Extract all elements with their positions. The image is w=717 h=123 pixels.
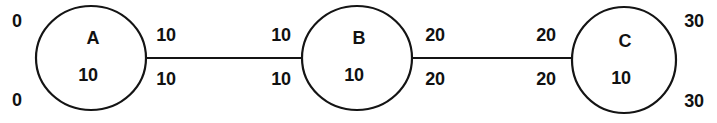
- network-diagram: 0 0 30 30 A 10 B 10 C 10 10 10 10 10 20 …: [0, 0, 717, 123]
- node-c-circle[interactable]: [572, 7, 676, 113]
- boundary-label-right-bottom: 30: [684, 92, 704, 110]
- edge-bc-label-target-top: 20: [536, 26, 556, 44]
- node-a-circle[interactable]: [36, 6, 146, 110]
- node-a-label: A: [87, 29, 100, 47]
- edge-ab-label-target-bottom: 10: [271, 70, 291, 88]
- edge-bc-label-target-bottom: 20: [536, 70, 556, 88]
- node-c-value: 10: [611, 69, 631, 87]
- boundary-label-left-top: 0: [12, 12, 22, 30]
- node-b-value: 10: [344, 66, 364, 84]
- boundary-label-left-bottom: 0: [12, 91, 22, 109]
- edge-ab-label-target-top: 10: [271, 26, 291, 44]
- edge-ab-label-source-bottom: 10: [156, 70, 176, 88]
- node-b-circle[interactable]: [302, 6, 412, 110]
- node-c-label: C: [619, 32, 632, 50]
- diagram-canvas: [0, 0, 717, 123]
- node-b-label: B: [353, 29, 366, 47]
- boundary-label-right-top: 30: [684, 12, 704, 30]
- node-a-value: 10: [78, 66, 98, 84]
- edge-ab-label-source-top: 10: [156, 26, 176, 44]
- edge-bc-label-source-top: 20: [425, 26, 445, 44]
- edge-bc-label-source-bottom: 20: [425, 70, 445, 88]
